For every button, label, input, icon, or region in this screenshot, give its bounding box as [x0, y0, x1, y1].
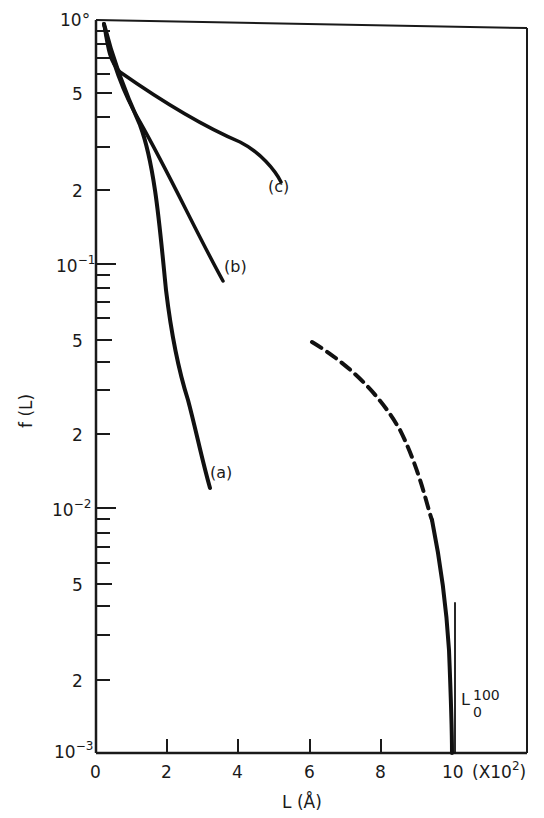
- x-label-8: 8: [375, 762, 386, 782]
- x-tick-labels: 0 2 4 6 8 10 (X102): [90, 759, 526, 782]
- y-label-2: 2: [72, 425, 83, 445]
- curve-label-a: (a): [210, 463, 232, 482]
- y-ticks: [96, 31, 116, 680]
- svg-text:L: L: [461, 690, 470, 709]
- chart: 10° 5 2 10−1 5 2 10−2 5 2 10−3 0 2 4 6 8…: [0, 0, 544, 818]
- x-label-4: 4: [232, 762, 243, 782]
- svg-text:100: 100: [473, 687, 500, 703]
- y-label-5: 5: [72, 575, 83, 595]
- y-label-1e0: 10°: [60, 10, 90, 30]
- x-ticks: [167, 739, 381, 753]
- plot-frame: [96, 20, 527, 753]
- curve-l0-solid: [432, 520, 452, 753]
- x-label-0: 0: [90, 762, 101, 782]
- y-label-2: 2: [72, 671, 83, 691]
- curve-l0-dashed: [312, 342, 432, 520]
- y-label-5: 5: [72, 331, 83, 351]
- y-label-2: 2: [72, 181, 83, 201]
- x-label-10: 10: [442, 762, 464, 782]
- l0-label: L 100 0: [461, 687, 500, 720]
- y-label-5: 5: [72, 84, 83, 104]
- y-label-1e-3: 10−3: [54, 739, 93, 762]
- x-label-2: 2: [161, 762, 172, 782]
- y-label-1e-1: 10−1: [56, 253, 95, 276]
- y-label-1e-2: 10−2: [52, 497, 91, 520]
- svg-text:0: 0: [473, 704, 482, 720]
- curves: [104, 24, 455, 753]
- curve-label-c: (c): [268, 177, 289, 196]
- x-axis-label: L (Å): [282, 791, 322, 812]
- curve-label-b: (b): [224, 257, 247, 276]
- x-multiplier: (X102): [472, 759, 526, 782]
- curve-b: [104, 24, 223, 281]
- x-label-6: 6: [304, 762, 315, 782]
- y-axis-label: f (L): [16, 394, 36, 428]
- curve-a: [104, 24, 210, 488]
- y-tick-labels: 10° 5 2 10−1 5 2 10−2 5 2 10−3: [52, 10, 95, 762]
